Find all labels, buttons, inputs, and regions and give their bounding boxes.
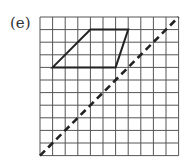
dashed-mirror-line: [40, 17, 179, 156]
grid-diagram: [0, 0, 189, 160]
